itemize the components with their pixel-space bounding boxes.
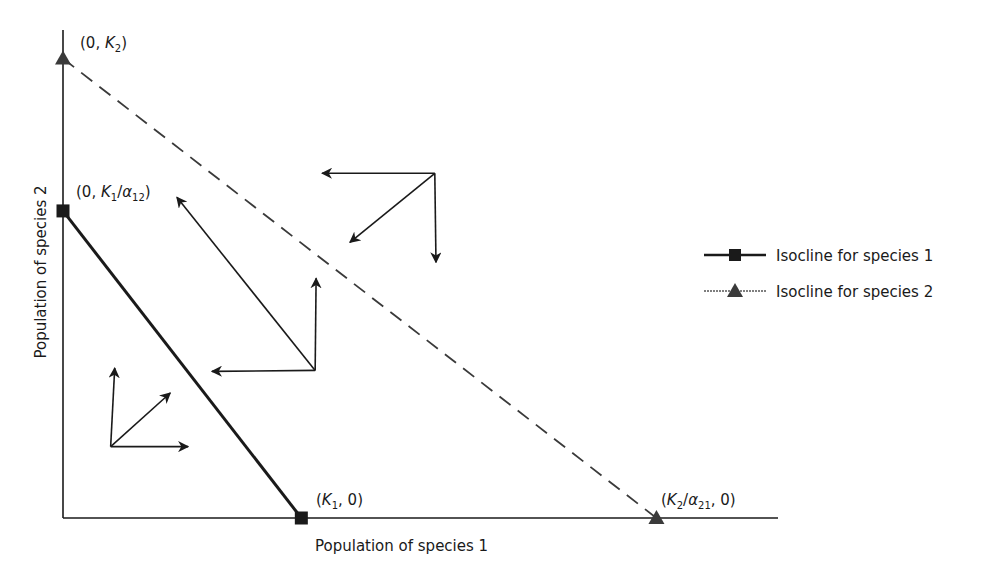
label-k2-over-alpha21-0: (K2/α21, 0) [661, 491, 736, 511]
vector-arrow [212, 370, 315, 371]
label-0-k2: (0, K2) [80, 34, 127, 54]
y-axis-title: Population of species 2 [32, 185, 50, 358]
legend-triangle-marker-icon [727, 283, 743, 297]
vector-cluster-region-between [177, 197, 316, 371]
population-vector-arrows [111, 173, 436, 446]
legend-label-species-2: Isocline for species 2 [776, 283, 933, 301]
isocline-species-2-line [63, 59, 656, 518]
isocline-diagram: (0, K2) (0, K1/α12) (K1, 0) (K2/α21, 0) … [0, 0, 997, 579]
isocline-species-1-marker-y-intercept [57, 204, 70, 217]
vector-arrow [315, 278, 316, 370]
vector-arrow [350, 173, 435, 242]
vector-cluster-region-above-both [322, 173, 436, 262]
isocline-species-2-marker-x-intercept [648, 510, 664, 524]
isocline-species-1-line [63, 211, 301, 518]
legend-item-species-2: Isocline for species 2 [704, 283, 933, 301]
vector-arrow [111, 368, 115, 447]
vector-arrow [177, 197, 315, 370]
legend-label-species-1: Isocline for species 1 [776, 247, 933, 265]
isocline-species-2-marker-y-intercept [55, 51, 71, 65]
isocline-species-1-marker-x-intercept [295, 512, 308, 525]
vector-arrow [435, 173, 436, 262]
legend-square-marker-icon [729, 249, 741, 261]
vector-cluster-region-below-both [111, 368, 188, 447]
legend-item-species-1: Isocline for species 1 [704, 247, 933, 265]
legend: Isocline for species 1 Isocline for spec… [704, 247, 933, 301]
vector-arrow [111, 393, 171, 447]
x-axis-title: Population of species 1 [315, 537, 488, 555]
label-k1-0: (K1, 0) [316, 491, 363, 511]
label-0-k1-over-alpha12: (0, K1/α12) [76, 183, 151, 203]
